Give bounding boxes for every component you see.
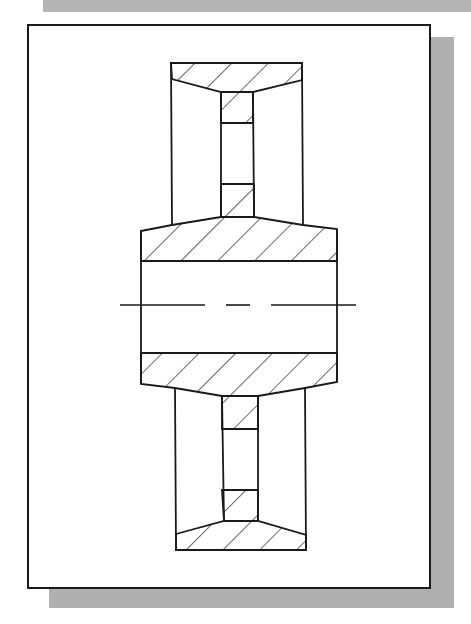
pulley-section-drawing [0,0,471,624]
rim-top-section [171,63,302,92]
web-top-lower-section [221,184,254,217]
hub-lower-section [141,353,337,396]
web-bottom-lower-section [222,490,258,521]
hub-upper-section [141,217,337,261]
web-bottom-upper-section [222,396,258,429]
web-top-upper-section [221,92,253,123]
rim-bottom-section [176,521,306,550]
